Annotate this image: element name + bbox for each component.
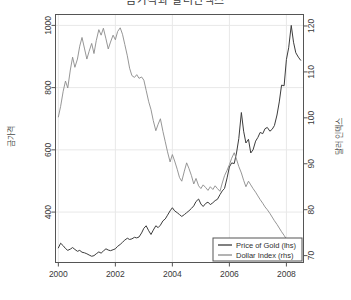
x-axis-tick-label: 2008	[277, 269, 296, 279]
y-axis-right-tick-label: 90	[307, 159, 317, 169]
chart-legend[interactable]: Price of Gold (lhs)Dollar Index (rhs)	[213, 238, 302, 261]
y-axis-right-tick-label: 100	[307, 110, 317, 124]
y-axis-right-tick-label: 80	[307, 205, 317, 215]
y-axis-left-tick-label: 600	[44, 142, 54, 156]
y-axis-left-tick-label: 800	[44, 80, 54, 94]
x-axis-tick-label: 2006	[220, 269, 239, 279]
x-axis-ticks: 20002002200420062008	[49, 263, 296, 279]
plot-frame	[56, 15, 304, 263]
series-line-1	[58, 25, 300, 256]
gridlines	[56, 15, 304, 263]
y-axis-left-tick-label: 1000	[44, 16, 54, 35]
y-axis-right-tick-label: 110	[307, 65, 317, 79]
data-series-group	[58, 25, 300, 256]
y-axis-left-tick-label: 400	[44, 205, 54, 219]
x-axis-tick-label: 2002	[106, 269, 125, 279]
y-axis-right-tick-label: 70	[307, 251, 317, 261]
chart-figure: 금가격과 달러인덱스 금가격 달러 인덱스 4006008001000 7080…	[0, 0, 351, 300]
y-axis-left-ticks: 4006008001000	[44, 16, 56, 220]
legend-label: Dollar Index (rhs)	[236, 251, 294, 260]
y-axis-right-ticks: 708090100110120	[304, 19, 317, 261]
x-axis-tick-label: 2004	[163, 269, 182, 279]
x-axis-tick-label: 2000	[49, 269, 68, 279]
legend-label: Price of Gold (lhs)	[236, 241, 297, 250]
plot-canvas: 4006008001000 708090100110120 2000200220…	[0, 0, 351, 300]
y-axis-right-tick-label: 120	[307, 19, 317, 33]
